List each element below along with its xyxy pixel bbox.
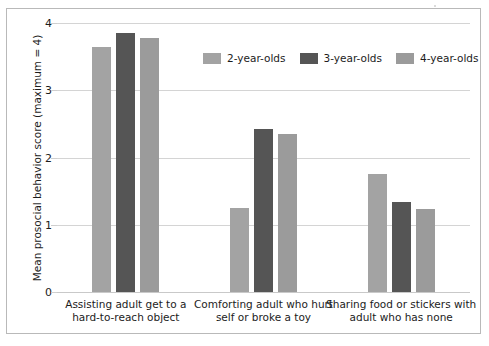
x-axis-label-line: self or broke a toy [184,311,344,324]
y-tick-label-3: 3 [26,84,52,97]
y-axis-tick-labels: 01234 [22,23,52,292]
legend-item-3-year-olds[interactable]: 3-year-olds [300,52,383,64]
gridline-4 [57,23,470,24]
bar-4-year-olds-group-3 [416,209,435,292]
x-axis-label-group-2: Comforting adult who hurtself or broke a… [184,298,344,324]
legend-item-4-year-olds[interactable]: 4-year-olds [396,52,479,64]
bar-3-year-olds-group-2 [254,129,273,292]
y-tick-mark-4 [51,23,57,24]
bar-3-year-olds-group-3 [392,202,411,292]
chart-legend: 2-year-olds3-year-olds4-year-olds [203,52,479,64]
bar-4-year-olds-group-1 [140,38,159,292]
x-axis-label-line: adult who has none [321,311,481,324]
x-axis-label-group-1: Assisting adult get to ahard-to-reach ob… [46,298,206,324]
y-tick-mark-0 [51,292,57,293]
x-axis-label-group-3: Sharing food or stickers withadult who h… [321,298,481,324]
legend-label: 3-year-olds [324,52,383,64]
bar-3-year-olds-group-1 [116,33,135,292]
gridline-0 [57,292,470,293]
x-axis-label-line: Comforting adult who hurt [184,298,344,311]
bar-chart: Mean prosocial behavior score (maximum =… [0,0,489,346]
legend-item-2-year-olds[interactable]: 2-year-olds [203,52,286,64]
legend-label: 2-year-olds [227,52,286,64]
bar-2-year-olds-group-2 [230,208,249,292]
bar-2-year-olds-group-3 [368,174,387,292]
bar-2-year-olds-group-1 [92,47,111,292]
legend-swatch-icon [203,53,221,64]
x-axis-label-line: Assisting adult get to a [46,298,206,311]
bar-4-year-olds-group-2 [278,134,297,292]
y-tick-label-2: 2 [26,151,52,164]
y-tick-label-0: 0 [26,286,52,299]
y-tick-mark-2 [51,158,57,159]
y-tick-label-4: 4 [26,17,52,30]
y-tick-mark-3 [51,90,57,91]
legend-label: 4-year-olds [420,52,479,64]
legend-swatch-icon [300,53,318,64]
x-axis-label-line: Sharing food or stickers with [321,298,481,311]
legend-swatch-icon [396,53,414,64]
y-tick-mark-1 [51,225,57,226]
x-axis-label-line: hard-to-reach object [46,311,206,324]
y-tick-label-1: 1 [26,218,52,231]
